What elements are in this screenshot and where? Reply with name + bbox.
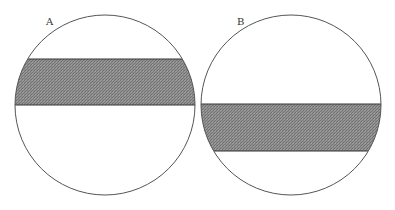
label-a: A — [45, 16, 54, 27]
shaded-band-a — [15, 59, 195, 105]
panel-a: A — [15, 15, 195, 195]
panel-b: B — [201, 15, 381, 195]
diagram-canvas: A B — [0, 0, 395, 210]
shaded-band-b — [201, 104, 381, 151]
label-b: B — [237, 16, 244, 27]
